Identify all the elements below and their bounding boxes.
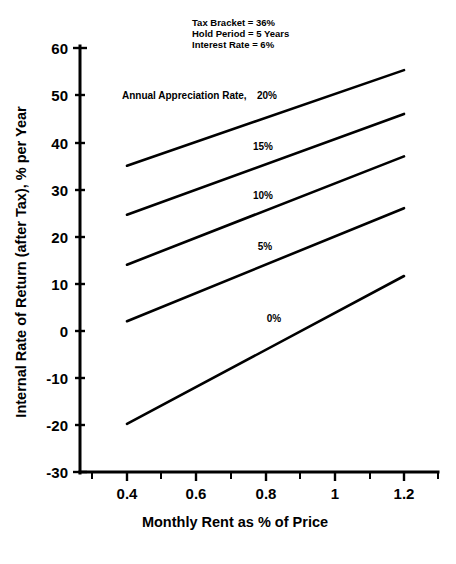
annotation-interest-rate: Interest Rate = 6% [192, 39, 275, 50]
annotation-hold-period: Hold Period = 5 Years [192, 28, 289, 39]
y-axis-title: Internal Rate of Return (after Tax), % p… [13, 106, 29, 418]
y-tick-label-60: 60 [51, 40, 68, 57]
legend-lead-text: Annual Appreciation Rate, [122, 90, 247, 101]
x-tick-label-1-2: 1.2 [394, 485, 415, 502]
x-tick-label-0-4: 0.4 [117, 485, 139, 502]
irr-line-chart: Tax Bracket = 36% Hold Period = 5 Years … [0, 0, 456, 564]
series-label-0: 0% [267, 313, 282, 324]
y-tick-label-neg30: -30 [46, 464, 68, 481]
series-label-15: 15% [253, 141, 273, 152]
x-axis-title: Monthly Rent as % of Price [142, 514, 328, 530]
y-tick-label-30: 30 [51, 182, 68, 199]
y-tick-label-40: 40 [51, 135, 68, 152]
y-tick-label-10: 10 [51, 276, 68, 293]
chart-background [0, 0, 456, 564]
y-tick-label-50: 50 [51, 87, 68, 104]
annotation-tax-bracket: Tax Bracket = 36% [192, 17, 276, 28]
series-label-20: 20% [257, 90, 277, 101]
x-tick-label-0-8: 0.8 [256, 485, 277, 502]
chart-container: Tax Bracket = 36% Hold Period = 5 Years … [0, 0, 456, 564]
x-tick-label-0-6: 0.6 [186, 485, 207, 502]
series-label-10: 10% [253, 190, 273, 201]
y-tick-label-0: 0 [60, 323, 68, 340]
y-tick-label-neg20: -20 [46, 417, 68, 434]
y-tick-label-neg10: -10 [46, 370, 68, 387]
x-tick-label-1-0: 1 [331, 485, 339, 502]
series-label-5: 5% [258, 241, 273, 252]
y-tick-label-20: 20 [51, 229, 68, 246]
